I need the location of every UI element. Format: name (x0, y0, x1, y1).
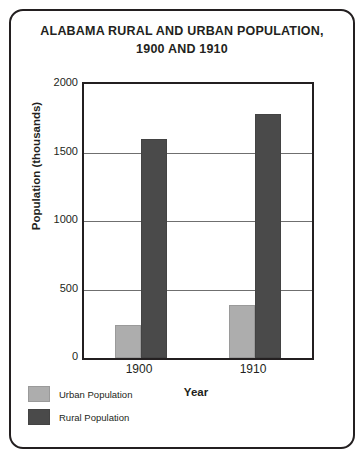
chart-title-line-1: ALABAMA RURAL AND URBAN POPULATION, (40, 24, 323, 38)
x-tick-label-1910: 1910 (213, 362, 293, 376)
legend-item-urban: Urban Population (28, 386, 132, 402)
chart-title-line-2: 1900 AND 1910 (22, 40, 342, 58)
bar-rural-population-1900 (141, 139, 167, 358)
bar-urban-population-1900 (115, 325, 141, 358)
chart-figure: ALABAMA RURAL AND URBAN POPULATION, 1900… (0, 0, 364, 458)
legend-swatch-urban (28, 386, 50, 402)
x-tick-label-1900: 1900 (99, 362, 179, 376)
y-tick-label-0: 0 (34, 350, 78, 362)
y-tick-label-500: 500 (34, 282, 78, 294)
legend-label-urban: Urban Population (59, 389, 132, 400)
y-axis-label: Population (thousands) (30, 86, 42, 246)
legend-swatch-rural (28, 409, 50, 425)
bar-urban-population-1910 (229, 305, 255, 358)
legend-item-rural: Rural Population (28, 409, 132, 425)
plot-area (82, 82, 314, 360)
chart-legend: Urban Population Rural Population (28, 386, 132, 432)
chart-title: ALABAMA RURAL AND URBAN POPULATION, 1900… (22, 22, 342, 58)
bar-rural-population-1910 (255, 114, 281, 358)
legend-label-rural: Rural Population (59, 412, 129, 423)
